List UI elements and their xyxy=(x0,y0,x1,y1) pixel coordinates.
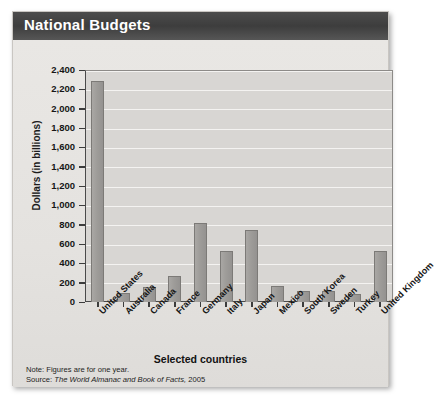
y-tick-mark xyxy=(79,205,85,207)
y-tick-label: 2,200 xyxy=(15,83,75,94)
y-tick-label: 0 xyxy=(15,296,75,307)
y-tick-mark xyxy=(79,244,85,246)
chart-title-bar: National Budgets xyxy=(13,12,388,40)
gridline xyxy=(86,225,392,226)
y-tick-mark xyxy=(79,224,85,226)
y-tick-mark xyxy=(79,70,85,72)
plot-inner xyxy=(86,71,392,301)
y-tick-label: 2,400 xyxy=(15,64,75,75)
y-tick-label: 1,800 xyxy=(15,122,75,133)
y-tick-mark xyxy=(79,147,85,149)
y-tick-label: 1,200 xyxy=(15,180,75,191)
y-tick-label: 2,000 xyxy=(15,103,75,114)
gridline xyxy=(86,148,392,149)
bar xyxy=(91,81,104,302)
gridline xyxy=(86,71,392,72)
gridline xyxy=(86,90,392,91)
y-tick-mark xyxy=(79,108,85,110)
gridline xyxy=(86,245,392,246)
gridline xyxy=(86,129,392,130)
y-tick-mark xyxy=(79,128,85,130)
note-line: Note: Figures are for one year. xyxy=(26,365,205,375)
source-line: Source: The World Almanac and Book of Fa… xyxy=(26,375,205,385)
y-tick-mark xyxy=(79,89,85,91)
chart-footnotes: Note: Figures are for one year. Source: … xyxy=(26,365,205,385)
page-title: National Budgets xyxy=(24,16,151,33)
y-tick-mark xyxy=(79,186,85,188)
gridline xyxy=(86,167,392,168)
y-tick-label: 400 xyxy=(15,257,75,268)
y-tick-label: 600 xyxy=(15,238,75,249)
plot-area xyxy=(85,70,393,302)
source-year: 2005 xyxy=(188,375,205,384)
x-axis-title: Selected countries xyxy=(13,353,388,365)
y-tick-label: 1,000 xyxy=(15,199,75,210)
gridline xyxy=(86,264,392,265)
y-tick-mark xyxy=(79,263,85,265)
y-tick-mark xyxy=(79,302,85,304)
gridline xyxy=(86,206,392,207)
y-tick-label: 200 xyxy=(15,277,75,288)
source-title: The World Almanac and Book of Facts, xyxy=(54,375,186,384)
gridline xyxy=(86,109,392,110)
y-tick-label: 1,600 xyxy=(15,141,75,152)
source-label: Source: xyxy=(26,375,52,384)
y-tick-label: 1,400 xyxy=(15,161,75,172)
bar xyxy=(245,230,258,303)
gridline xyxy=(86,187,392,188)
y-tick-mark xyxy=(79,282,85,284)
chart-card: National Budgets Dollars (in billions) 0… xyxy=(12,11,389,386)
y-tick-mark xyxy=(79,166,85,168)
y-tick-label: 800 xyxy=(15,219,75,230)
chart-body: Dollars (in billions) 02004006008001,000… xyxy=(13,40,388,387)
